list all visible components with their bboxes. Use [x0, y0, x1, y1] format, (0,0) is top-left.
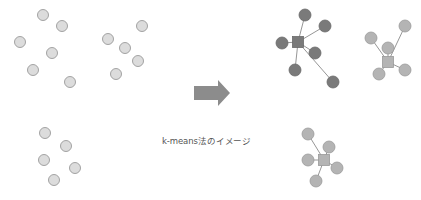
clustered-points: [276, 9, 411, 187]
cluster-3: [302, 128, 343, 187]
data-point: [39, 155, 50, 166]
cluster-point: [310, 175, 322, 187]
data-point: [28, 65, 39, 76]
kmeans-diagram: [0, 0, 421, 200]
raw-data-points: [15, 10, 148, 186]
cluster-point: [299, 9, 311, 21]
cluster-point: [399, 20, 411, 32]
cluster-point: [319, 20, 331, 32]
cluster-point: [365, 32, 377, 44]
data-point: [57, 21, 68, 32]
data-point: [70, 163, 81, 174]
data-point: [120, 43, 131, 54]
data-point: [49, 175, 60, 186]
cluster-point: [327, 76, 339, 88]
cluster-point: [399, 64, 411, 76]
cluster-point: [309, 47, 321, 59]
cluster-point: [289, 64, 301, 76]
data-point: [133, 56, 144, 67]
centroid-square-icon: [293, 37, 304, 48]
data-point: [38, 10, 49, 21]
data-point: [65, 77, 76, 88]
arrow-shape: [194, 80, 230, 106]
cluster-point: [302, 154, 314, 166]
cluster-point: [302, 128, 314, 140]
data-point: [15, 37, 26, 48]
data-point: [103, 34, 114, 45]
cluster-point: [382, 42, 394, 54]
cluster-point: [331, 162, 343, 174]
cluster-2: [365, 20, 411, 80]
diagram-caption: k-means法のイメージ: [162, 134, 251, 146]
data-point: [137, 21, 148, 32]
data-point: [61, 141, 72, 152]
centroid-square-icon: [319, 155, 330, 166]
data-point: [111, 69, 122, 80]
cluster-point: [323, 141, 335, 153]
cluster-point: [276, 37, 288, 49]
cluster-point: [373, 68, 385, 80]
data-point: [40, 128, 51, 139]
cluster-1: [276, 9, 339, 88]
right-arrow-icon: [194, 80, 230, 106]
data-point: [47, 48, 58, 59]
centroid-square-icon: [383, 57, 394, 68]
